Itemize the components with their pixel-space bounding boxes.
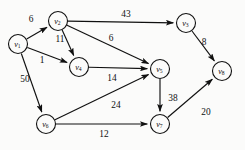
edge-weight-v6-to-v7: 12 [99, 129, 109, 139]
edge-weight-v4-to-v5: 14 [107, 73, 117, 83]
graph-edge-v6-to-v5 [55, 75, 149, 120]
graph-edge-v1-to-v4 [27, 48, 67, 63]
edge-weight-v5-to-v7: 38 [168, 93, 178, 103]
graph-canvas: v1v2v3v4v5v6v7v8 64311615014241238820 [0, 0, 245, 150]
edge-weight-v1-to-v2: 6 [29, 14, 34, 24]
graph-edge-v1-to-v2 [27, 27, 47, 39]
edge-weight-v7-to-v8: 20 [201, 107, 211, 117]
edge-weight-v1-to-v4: 1 [40, 55, 45, 65]
graph-edge-v4-to-v5 [89, 67, 147, 68]
edge-weight-v1-to-v6: 50 [20, 74, 30, 84]
weighted-directed-graph-figure: v1v2v3v4v5v6v7v8 64311615014241238820 [0, 0, 245, 150]
edge-weight-v6-to-v5: 24 [111, 100, 121, 110]
edge-weight-v2-to-v5: 6 [109, 33, 114, 43]
edge-weight-v2-to-v3: 43 [121, 9, 131, 19]
graph-edge-v2-to-v3 [68, 21, 173, 23]
edge-weight-v3-to-v8: 8 [202, 37, 207, 47]
edge-weight-v2-to-v4: 11 [55, 34, 64, 44]
